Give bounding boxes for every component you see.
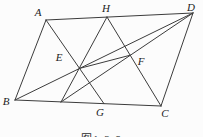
diagonal-BD [15, 13, 193, 100]
line-H-G1 [61, 17, 107, 102]
geometry-figure-panel: AHDBGCEF 图1-3-9 [0, 0, 203, 137]
side-CD [161, 13, 193, 106]
side-AB [15, 20, 46, 100]
point-label-H: H [101, 2, 111, 14]
segment-EF [80, 55, 131, 68]
point-label-G: G [96, 106, 104, 118]
point-label-E: E [55, 51, 63, 63]
figure-caption: 图1-3-9 [0, 130, 203, 137]
point-label-D: D [186, 1, 195, 13]
line-D-G1 [61, 13, 193, 102]
point-label-C: C [161, 107, 169, 119]
point-label-B: B [3, 95, 10, 107]
point-label-F: F [137, 55, 145, 67]
point-label-A: A [34, 6, 42, 18]
side-BC [15, 100, 161, 106]
line-H-C [107, 17, 161, 106]
parallelogram-diagram: AHDBGCEF [0, 0, 203, 137]
side-DA [46, 13, 193, 20]
